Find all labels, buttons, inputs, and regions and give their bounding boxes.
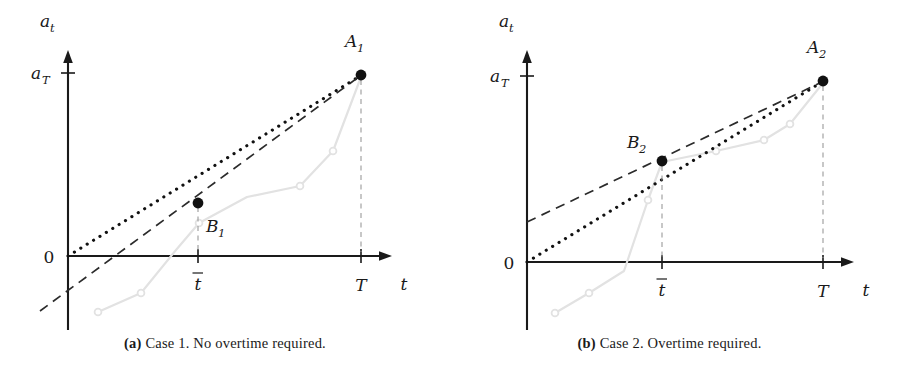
panel-case-1: A 1 B 1 a t a T 0 t T t — [0, 0, 450, 330]
x-tick-label-T-case-2: T — [817, 281, 830, 301]
x-tick-label-tbar-case-1: t — [193, 273, 204, 294]
svg-text:T: T — [501, 76, 510, 90]
label-A1: A 1 — [343, 31, 364, 55]
gray-progress-path-case-2 — [555, 83, 823, 313]
caption-tag-b: (b) — [578, 335, 596, 351]
caption-tag-a: (a) — [124, 335, 142, 351]
x-axis-label-case-2: t — [863, 280, 870, 300]
svg-text:1: 1 — [357, 41, 364, 55]
svg-text:a: a — [490, 66, 500, 86]
point-A2 — [818, 76, 829, 87]
svg-text:2: 2 — [638, 142, 646, 156]
y-axis-label-case-2: a t — [499, 11, 514, 35]
svg-text:A: A — [343, 31, 357, 51]
x-axis-case-1 — [68, 251, 392, 261]
svg-text:T: T — [42, 73, 51, 87]
label-A2: A 2 — [805, 37, 826, 61]
svg-text:B: B — [626, 132, 640, 152]
svg-text:a: a — [31, 63, 41, 83]
svg-text:1: 1 — [218, 226, 225, 240]
point-B2 — [657, 156, 668, 167]
origin-label-case-1: 0 — [44, 247, 55, 267]
svg-text:A: A — [805, 37, 819, 57]
svg-text:t: t — [509, 21, 514, 35]
label-B2: B 2 — [626, 132, 646, 156]
caption-case-1: (a) Case 1. No overtime required. — [0, 333, 450, 379]
label-B1: B 1 — [205, 216, 225, 240]
y-tick-label-aT-case-1: a T — [31, 63, 51, 87]
caption-text-b: Case 2. Overtime required. — [600, 335, 762, 351]
point-B1 — [193, 198, 204, 209]
svg-text:t: t — [195, 274, 202, 294]
chart-case-1: A 1 B 1 a t a T 0 t T t — [0, 0, 450, 330]
figure-container: A 1 B 1 a t a T 0 t T t — [0, 0, 899, 379]
svg-text:a: a — [499, 11, 509, 31]
svg-text:a: a — [40, 11, 50, 31]
gray-progress-path-case-1 — [98, 77, 361, 312]
y-tick-label-aT-case-2: a T — [490, 66, 510, 90]
x-tick-label-tbar-case-2: t — [657, 279, 668, 300]
svg-text:B: B — [205, 216, 219, 236]
y-axis-label-case-1: a t — [40, 11, 55, 35]
caption-text-a: Case 1. No overtime required. — [145, 335, 326, 351]
point-A1 — [356, 70, 367, 81]
origin-label-case-2: 0 — [504, 253, 515, 273]
dotted-contract-line-case-2 — [527, 82, 822, 262]
x-tick-label-T-case-1: T — [355, 275, 368, 295]
dashed-trend-line-case-2 — [527, 82, 822, 222]
svg-text:t: t — [50, 21, 55, 35]
y-axis-case-2 — [522, 50, 532, 330]
svg-text:t: t — [659, 280, 666, 300]
x-axis-case-2 — [527, 257, 854, 267]
panel-case-2: A 2 B 2 a t a T 0 t T t — [440, 0, 899, 330]
svg-text:2: 2 — [818, 47, 826, 61]
caption-case-2: (b) Case 2. Overtime required. — [440, 333, 899, 379]
gray-progress-markers-case-2 — [552, 121, 794, 317]
x-axis-label-case-1: t — [401, 274, 408, 294]
chart-case-2: A 2 B 2 a t a T 0 t T t — [440, 0, 899, 330]
